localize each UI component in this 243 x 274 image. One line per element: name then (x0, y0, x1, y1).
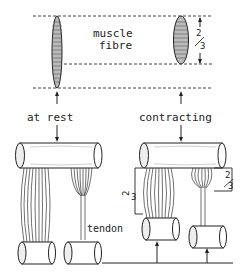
contracting-arrow-icon (179, 91, 183, 104)
at-rest-label: at rest (27, 111, 73, 124)
contracted-muscle-with-tendon-icon (192, 168, 212, 226)
contracted-fibre-icon (174, 16, 189, 64)
fraction-denominator: 3 (200, 41, 205, 51)
fraction-numerator: 2 (121, 191, 131, 196)
left-lift-arrow-icon (155, 241, 159, 263)
at-rest-muscle: tendon (16, 143, 124, 264)
right-lift-arrow-icon (205, 248, 209, 263)
contract-left-two-thirds-bracket: 2 3 (121, 168, 143, 214)
at-rest-down-arrow-icon (55, 125, 59, 142)
bottom-bone-right-1-icon (142, 218, 180, 240)
fraction-numerator: 2 (196, 28, 201, 38)
muscle-fibre-label-line2: fibre (99, 39, 132, 52)
top-bone-right-icon (140, 143, 227, 168)
tendon-label: tendon (87, 223, 123, 234)
fraction-denominator: 3 (131, 192, 136, 202)
muscle-contraction-diagram: muscle fibre 2 3 at rest contracting (0, 0, 243, 274)
bottom-bone-left-1-icon (18, 242, 56, 264)
fraction-denominator: 3 (228, 181, 233, 191)
fraction-numerator: 2 (225, 170, 230, 180)
fibre-section: muscle fibre 2 3 at rest contracting (27, 16, 212, 142)
top-bone-left-icon (16, 143, 103, 168)
contracting-label: contracting (139, 111, 212, 124)
contracting-muscle: 2 3 2 3 (102, 143, 233, 263)
relaxed-muscle-fibers-icon (21, 168, 50, 242)
contracted-muscle-fibers-icon (144, 168, 175, 218)
relaxed-fibre-icon (52, 16, 62, 88)
bottom-bone-left-2-icon (64, 242, 102, 264)
fibre-dimension-two-thirds: 2 3 (195, 17, 205, 64)
at-rest-arrow-icon (55, 91, 59, 104)
bottom-bone-right-2-icon (189, 226, 227, 248)
contracting-down-arrow-icon (179, 125, 183, 142)
contract-right-two-thirds-bracket: 2 3 (214, 168, 233, 191)
